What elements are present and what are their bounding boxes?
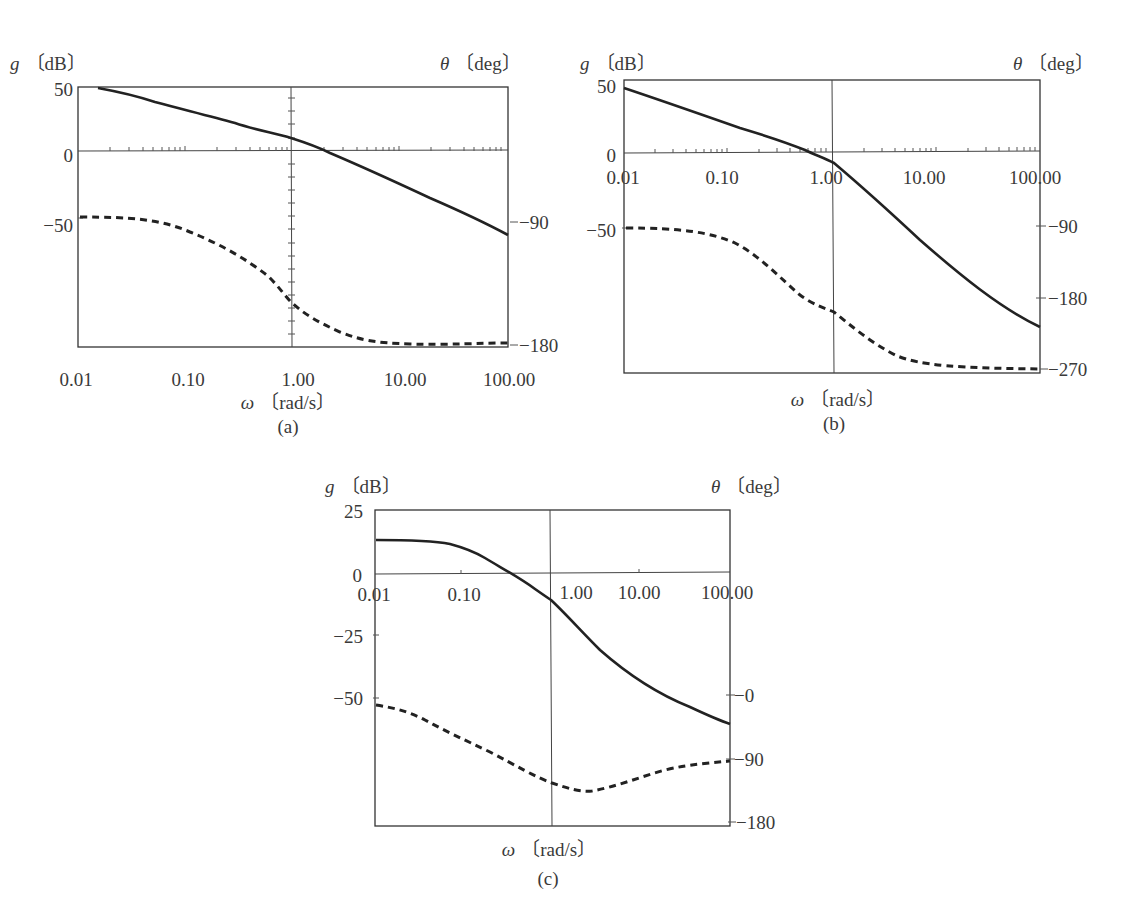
phase-curve-c — [376, 705, 730, 791]
x-axis-label-a: ω〔rad/s〕 — [241, 392, 335, 413]
x-tick-label-c: 0.01 — [357, 584, 390, 605]
panel-b: g〔dB〕 θ〔deg〕 50 0 −50 −90 −180 −270 0.01… — [580, 53, 1094, 435]
x-axis-label-b: ω〔rad/s〕 — [791, 389, 885, 410]
right-tick-label-c: −180 — [736, 812, 775, 833]
panel-a: g〔dB〕 θ〔deg〕 50 0 −50 −90 −180 0.01 0.10… — [10, 53, 558, 438]
left-axis-label-c: g〔dB〕 — [325, 476, 401, 497]
x-tick-label-a: 1.00 — [281, 369, 314, 390]
left-tick-label-b: −50 — [586, 220, 616, 241]
x-tick-label-a: 10.00 — [384, 369, 427, 390]
gain-curve-a — [98, 88, 508, 235]
left-tick-label-a: 50 — [54, 79, 73, 100]
x-tick-label-c: 0.10 — [447, 584, 480, 605]
right-tick-label-a: −90 — [519, 212, 549, 233]
left-tick-label-b: 50 — [597, 76, 616, 97]
caption-c: (c) — [537, 868, 558, 890]
left-tick-label-a: 0 — [64, 145, 74, 166]
x-tick-label-b: 0.01 — [606, 167, 639, 188]
right-tick-label-a: −180 — [519, 335, 558, 356]
zero-db-line-c — [375, 572, 730, 574]
x-tick-label-b: 10.00 — [903, 167, 946, 188]
gain-curve-c — [376, 540, 730, 724]
x-tick-label-b: 1.00 — [809, 167, 842, 188]
x-tick-label-b: 0.10 — [705, 167, 738, 188]
left-tick-label-c: 0 — [353, 565, 363, 586]
right-axis-label-a: θ〔deg〕 — [440, 53, 521, 74]
left-axis-label-a: g〔dB〕 — [10, 53, 86, 74]
x-tick-label-a: 100.00 — [483, 369, 535, 390]
caption-b: (b) — [823, 413, 845, 435]
right-axis-label-c: θ〔deg〕 — [711, 476, 792, 497]
x-tick-label-c: 1.00 — [559, 582, 592, 603]
x-tick-label-b: 100.00 — [1009, 167, 1061, 188]
x-axis-label-c: ω〔rad/s〕 — [502, 839, 596, 860]
bode-figure: g〔dB〕 θ〔deg〕 50 0 −50 −90 −180 0.01 0.10… — [0, 0, 1125, 906]
left-tick-label-c: 25 — [344, 501, 363, 522]
right-tick-label-c: −90 — [734, 749, 764, 770]
unity-frequency-line-c — [550, 510, 552, 826]
left-tick-label-c: −50 — [333, 688, 363, 709]
phase-curve-a — [80, 217, 508, 344]
right-tick-label-b: −90 — [1048, 216, 1078, 237]
right-axis-label-b: θ〔deg〕 — [1013, 53, 1094, 74]
left-tick-label-a: −50 — [43, 215, 73, 236]
right-tick-label-c: −0 — [734, 685, 754, 706]
caption-a: (a) — [277, 416, 298, 438]
x-tick-label-c: 10.00 — [618, 582, 661, 603]
x-tick-label-c: 100.00 — [701, 582, 753, 603]
left-axis-label-b: g〔dB〕 — [580, 53, 656, 74]
x-tick-label-a: 0.01 — [59, 369, 92, 390]
left-tick-label-c: −25 — [333, 626, 363, 647]
left-tick-label-b: 0 — [607, 145, 617, 166]
plot-frame-c — [375, 510, 730, 826]
panel-c: g〔dB〕 θ〔deg〕 25 0 −25 −50 −0 −90 −180 0.… — [325, 476, 792, 890]
right-tick-label-b: −270 — [1048, 359, 1087, 380]
right-tick-label-b: −180 — [1048, 288, 1087, 309]
x-tick-label-a: 0.10 — [171, 369, 204, 390]
unity-frequency-line-b — [832, 80, 834, 373]
